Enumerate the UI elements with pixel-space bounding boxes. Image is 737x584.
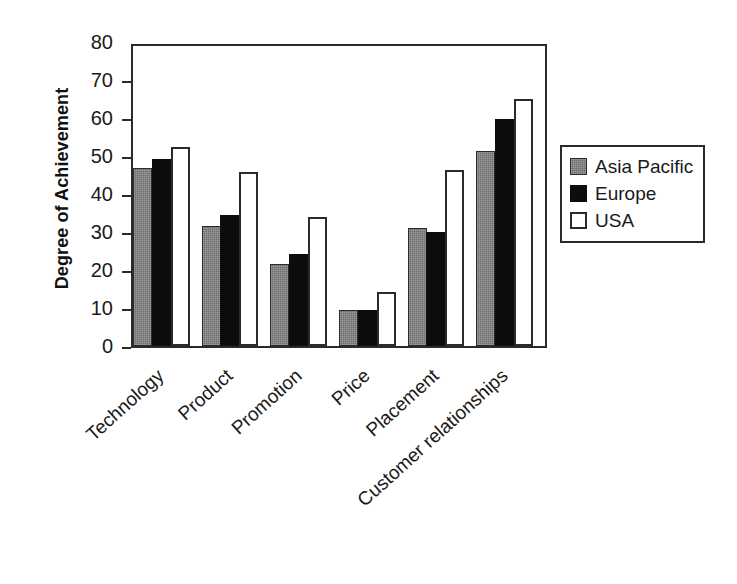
bar-group xyxy=(476,46,545,346)
y-axis-tick-label: 70 xyxy=(91,69,113,92)
bar[interactable] xyxy=(202,226,221,346)
legend: Asia PacificEuropeUSA xyxy=(560,145,705,243)
bar[interactable] xyxy=(358,310,377,346)
y-axis-tick-label: 60 xyxy=(91,107,113,130)
bar-group xyxy=(270,46,339,346)
bar[interactable] xyxy=(514,99,533,347)
legend-swatch-icon xyxy=(570,185,587,202)
legend-item[interactable]: Asia Pacific xyxy=(570,153,693,180)
bar-chart: Degree of Achievement TechnologyProductP… xyxy=(0,0,737,584)
legend-item[interactable]: USA xyxy=(570,207,693,234)
bar[interactable] xyxy=(133,168,152,346)
y-axis-tick-label: 30 xyxy=(91,221,113,244)
bar-group xyxy=(339,46,408,346)
y-axis-tick-mark xyxy=(122,81,131,83)
legend-swatch-icon xyxy=(570,158,587,175)
y-axis-tick-label: 40 xyxy=(91,183,113,206)
bar-group xyxy=(202,46,271,346)
bar[interactable] xyxy=(408,228,427,346)
bar[interactable] xyxy=(377,292,396,346)
y-axis-tick-mark xyxy=(122,195,131,197)
bar-group xyxy=(133,46,202,346)
legend-item-label: Asia Pacific xyxy=(595,156,693,178)
y-axis-tick-mark xyxy=(122,347,131,349)
y-axis-tick-label: 50 xyxy=(91,145,113,168)
bar[interactable] xyxy=(239,172,258,346)
bar[interactable] xyxy=(476,151,495,346)
y-axis-tick-mark xyxy=(122,309,131,311)
bars-layer xyxy=(133,46,545,346)
bar-group xyxy=(408,46,477,346)
bar[interactable] xyxy=(270,264,289,347)
y-axis-tick-label: 20 xyxy=(91,259,113,282)
bar[interactable] xyxy=(220,215,239,346)
bar[interactable] xyxy=(426,232,445,346)
legend-item-label: Europe xyxy=(595,183,656,205)
y-axis-tick-mark xyxy=(122,233,131,235)
y-axis-tick-mark xyxy=(122,119,131,121)
bar[interactable] xyxy=(152,159,171,347)
y-axis-tick-label: 0 xyxy=(102,335,113,358)
legend-item[interactable]: Europe xyxy=(570,180,693,207)
bar[interactable] xyxy=(308,217,327,346)
legend-swatch-icon xyxy=(570,212,587,229)
y-axis-tick-mark xyxy=(122,157,131,159)
y-axis-title: Degree of Achievement xyxy=(52,59,73,319)
bar[interactable] xyxy=(171,147,190,346)
bar[interactable] xyxy=(495,119,514,346)
y-axis-tick-mark xyxy=(122,271,131,273)
y-axis-tick-label: 10 xyxy=(91,297,113,320)
bar[interactable] xyxy=(289,254,308,346)
bar[interactable] xyxy=(445,170,464,346)
legend-item-label: USA xyxy=(595,210,634,232)
y-axis-tick-label: 80 xyxy=(91,31,113,54)
bar[interactable] xyxy=(339,310,358,346)
